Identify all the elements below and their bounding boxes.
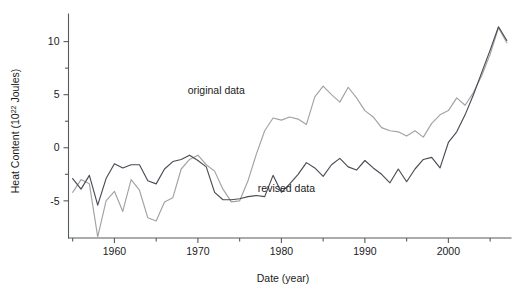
y-axis-title-exponent: 22 <box>10 105 17 113</box>
y-axis-title-prefix: Heat Content (10 <box>9 113 21 193</box>
y-axis-tick-label: 10 <box>48 35 60 47</box>
ocean-heat-content-chart: -50510 19601970198019902000 original dat… <box>0 0 530 294</box>
y-axis-tick-label: 0 <box>54 141 60 153</box>
x-axis-tick-label: 1970 <box>186 245 210 257</box>
x-axis-tick-label: 1960 <box>103 245 127 257</box>
chart-canvas: -50510 19601970198019902000 original dat… <box>0 0 530 294</box>
y-axis-ticks <box>64 42 69 201</box>
series-label-original-data: original data <box>188 84 245 96</box>
y-axis-tick-label: 5 <box>54 88 60 100</box>
x-axis-tick-label: 1990 <box>353 245 377 257</box>
y-axis-tick-labels: -50510 <box>48 35 60 206</box>
series-line-revised-data <box>73 27 507 205</box>
y-axis-title: Heat Content (1022 Joules) <box>9 69 21 194</box>
y-axis-title-suffix: Joules) <box>9 69 21 106</box>
y-axis-tick-label: -5 <box>50 195 59 207</box>
axes: -50510 19601970198019902000 <box>48 14 511 257</box>
series-line-original-data <box>73 28 507 237</box>
x-axis-title: Date (year) <box>257 272 310 284</box>
data-series-group <box>73 27 507 237</box>
x-axis-tick-label: 1980 <box>270 245 294 257</box>
x-axis-tick-label: 2000 <box>437 245 461 257</box>
x-axis-ticks <box>73 238 490 243</box>
x-axis-tick-labels: 19601970198019902000 <box>103 245 460 257</box>
series-label-revised-data: revised data <box>258 182 315 194</box>
